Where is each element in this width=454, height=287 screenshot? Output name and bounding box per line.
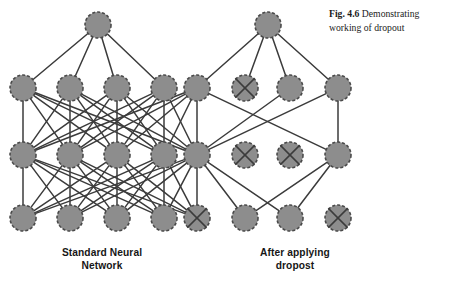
- figure-page: Fig. 4.6 Demonstrating working of dropou…: [0, 0, 454, 287]
- neuron-node[interactable]: [277, 205, 303, 231]
- neuron-node[interactable]: [104, 205, 130, 231]
- left-network-label-line1: Standard Neural: [12, 246, 192, 259]
- neuron-node[interactable]: [10, 205, 36, 231]
- dropped-neuron-node[interactable]: [232, 142, 258, 168]
- figure-caption: Fig. 4.6 Demonstrating working of dropou…: [329, 7, 451, 34]
- neuron-circle: [57, 205, 83, 231]
- right-network-label-line1: After applying: [205, 246, 385, 259]
- neuron-node[interactable]: [277, 75, 303, 101]
- neuron-node[interactable]: [57, 205, 83, 231]
- neuron-node[interactable]: [10, 142, 36, 168]
- neuron-circle: [10, 142, 36, 168]
- connection-line: [32, 33, 89, 81]
- neuron-circle: [325, 75, 351, 101]
- neuron-circle: [277, 205, 303, 231]
- edge-layer: [23, 33, 338, 214]
- connection-line: [207, 162, 280, 212]
- neuron-circle: [184, 142, 210, 168]
- figure-caption-label: Fig. 4.6: [329, 8, 359, 19]
- left-network-label-line2: Network: [12, 259, 192, 272]
- dropped-neuron-node[interactable]: [277, 142, 303, 168]
- neuron-circle: [232, 205, 258, 231]
- neuron-node[interactable]: [57, 75, 83, 101]
- neuron-circle: [85, 12, 111, 38]
- right-network-label: After applying dropost: [205, 246, 385, 272]
- neuron-circle: [104, 142, 130, 168]
- neuron-circle: [57, 142, 83, 168]
- neuron-circle: [255, 12, 281, 38]
- neural-network-diagram: [0, 0, 454, 287]
- neuron-circle: [184, 75, 210, 101]
- dropped-neuron-node[interactable]: [325, 205, 351, 231]
- neuron-circle: [10, 75, 36, 101]
- neuron-circle: [151, 142, 177, 168]
- neuron-node[interactable]: [104, 75, 130, 101]
- neuron-circle: [57, 75, 83, 101]
- neuron-node[interactable]: [255, 12, 281, 38]
- neuron-node[interactable]: [184, 75, 210, 101]
- dropped-neuron-node[interactable]: [184, 205, 210, 231]
- neuron-node[interactable]: [232, 205, 258, 231]
- right-network-label-line2: dropost: [205, 259, 385, 272]
- connection-line: [272, 36, 286, 76]
- neuron-circle: [10, 205, 36, 231]
- neuron-node[interactable]: [325, 142, 351, 168]
- connection-line: [107, 33, 156, 79]
- neuron-node[interactable]: [10, 75, 36, 101]
- connection-line: [255, 162, 328, 212]
- connection-line: [101, 36, 113, 76]
- neuron-node[interactable]: [151, 75, 177, 101]
- neuron-circle: [151, 75, 177, 101]
- neuron-node[interactable]: [151, 142, 177, 168]
- neuron-circle: [151, 205, 177, 231]
- connection-line: [249, 36, 264, 76]
- neuron-circle: [277, 75, 303, 101]
- neuron-circle: [104, 205, 130, 231]
- neuron-node[interactable]: [57, 142, 83, 168]
- neuron-node[interactable]: [184, 142, 210, 168]
- neuron-node[interactable]: [325, 75, 351, 101]
- neuron-node[interactable]: [85, 12, 111, 38]
- neuron-node[interactable]: [151, 205, 177, 231]
- neuron-circle: [325, 142, 351, 168]
- neuron-circle: [104, 75, 130, 101]
- neuron-node[interactable]: [104, 142, 130, 168]
- dropped-neuron-node[interactable]: [232, 75, 258, 101]
- left-network-label: Standard Neural Network: [12, 246, 192, 272]
